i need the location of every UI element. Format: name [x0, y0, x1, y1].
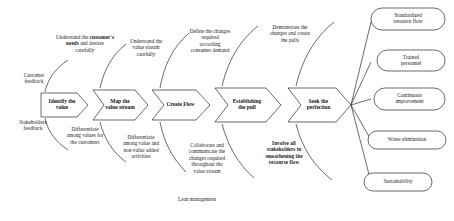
chevron-label-create-flow: Create Flow	[158, 101, 203, 107]
annotation-text-pre: Understand the	[56, 34, 88, 40]
annotation-demonstrate-changes: Demonstrate the changes and create the p…	[257, 24, 323, 43]
chevron-label-seek-perfection: Seek the perfection	[295, 98, 342, 111]
chevron-label-establishing-pull: Establishing the pull	[222, 98, 272, 111]
annotation-involve-stakeholders: Involve all stakeholders in smoothening …	[251, 140, 317, 166]
input-label-customer-feedback: Customer feedback	[12, 72, 56, 85]
outcome-label-trained-personnel: Trained personnel	[377, 54, 445, 67]
outcome-label-sustainability: Sustainability	[364, 178, 432, 184]
input-label-stakeholders-feedback: Stakeholders feedback	[8, 119, 58, 132]
diagram-canvas: Identify the value Map the value stream …	[0, 0, 454, 221]
annotation-understand-customer-needs: Understand the customer's needs and desi…	[55, 34, 115, 53]
outcome-label-waste-elimination: Waste elimination	[368, 136, 446, 142]
annotation-differentiate-value-added: Differentiate among value and non-value …	[112, 134, 170, 160]
outcome-label-continuous-improvement: Continuous improvement	[374, 92, 445, 105]
annotation-differentiate-values: Differentiate among values for the custo…	[56, 126, 114, 145]
diagram-caption-lean-management: Lean management	[178, 196, 268, 202]
annotation-text-post: and desires carefully	[76, 40, 104, 52]
fan-connector-lines	[351, 22, 371, 182]
chevron-label-identify-value: Identify the value	[42, 98, 82, 111]
annotation-collaborate-communicate: Collaborate and communicate the changes …	[178, 142, 236, 174]
annotation-define-changes: Define the changes required according co…	[180, 28, 240, 54]
annotation-understand-value-stream: Understand the value stream carefully	[118, 38, 174, 57]
outcome-label-standardized-resource-flow: Standardized resource flow	[371, 12, 445, 25]
chevron-label-map-value-stream: Map the value stream	[99, 98, 141, 111]
